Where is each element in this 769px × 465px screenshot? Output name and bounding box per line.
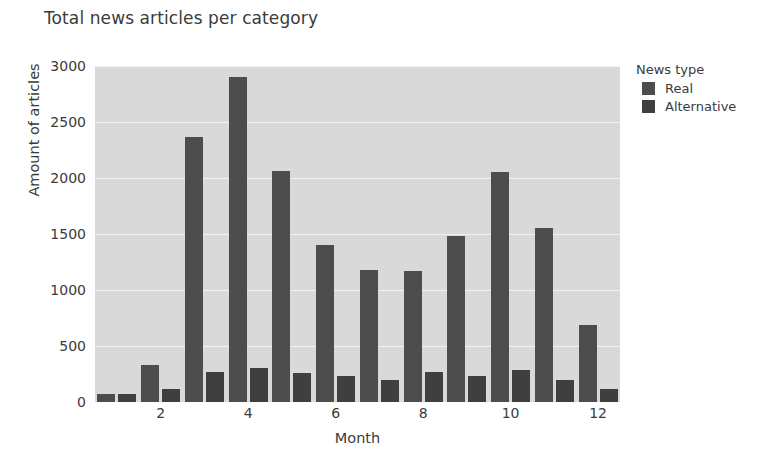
x-tick-label: 2 [141,405,181,421]
bar-alternative-month-3 [206,372,224,402]
x-tick-label: 10 [491,405,531,421]
bar-real-month-5 [272,171,290,402]
legend-item-real[interactable]: Real [642,81,764,96]
bar-alternative-month-5 [293,373,311,402]
chart-title: Total news articles per category [44,8,318,28]
y-tick-label: 500 [0,338,86,354]
y-tick-label: 1500 [0,226,86,242]
bar-real-month-9 [447,236,465,402]
bar-real-month-12 [579,325,597,402]
bar-alternative-month-4 [250,368,268,402]
bar-alternative-month-7 [381,380,399,402]
y-tick-label: 2500 [0,114,86,130]
y-tick-label: 0 [0,394,86,410]
legend-swatch-icon [642,82,655,95]
bar-alternative-month-12 [600,389,618,402]
x-tick-label: 8 [403,405,443,421]
x-axis-label: Month [95,430,620,446]
legend-item-label: Alternative [665,99,736,114]
bar-alternative-month-6 [337,376,355,402]
bar-real-month-2 [141,365,159,402]
plot-area [95,66,620,402]
bar-real-month-1 [97,394,115,402]
bar-real-month-10 [491,172,509,402]
bar-alternative-month-9 [468,376,486,402]
x-tick-label: 6 [316,405,356,421]
legend-rows: RealAlternative [636,81,764,114]
bar-real-month-4 [229,77,247,402]
bar-real-month-7 [360,270,378,402]
bar-real-month-11 [535,228,553,402]
bar-alternative-month-8 [425,372,443,402]
bar-alternative-month-11 [556,380,574,402]
x-tick-label: 4 [228,405,268,421]
bar-real-month-8 [404,271,422,402]
legend-swatch-icon [642,100,655,113]
y-tick-label: 1000 [0,282,86,298]
bars-layer [95,66,620,402]
x-axis-ticks: 24681012 [95,405,620,427]
y-tick-label: 3000 [0,58,86,74]
bar-alternative-month-1 [118,394,136,402]
bar-alternative-month-10 [512,370,530,402]
legend-item-label: Real [665,81,693,96]
legend: News type RealAlternative [636,62,764,117]
x-tick-label: 12 [578,405,618,421]
bar-real-month-3 [185,137,203,402]
legend-title: News type [636,62,764,77]
bar-alternative-month-2 [162,389,180,402]
y-tick-label: 2000 [0,170,86,186]
chart-figure: Total news articles per category Amount … [0,0,769,465]
bar-real-month-6 [316,245,334,402]
legend-item-alternative[interactable]: Alternative [642,99,764,114]
